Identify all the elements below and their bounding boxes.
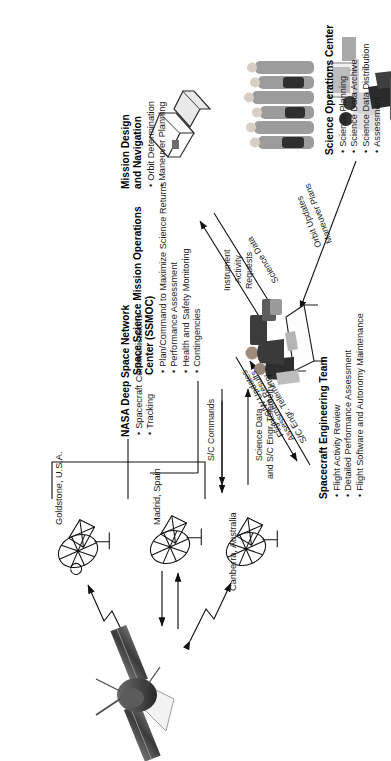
diagram-rotor: Goldstone, U.S.A. Madrid, Spain Canberra… [0, 0, 391, 761]
block-title-spacecraft-engineering: Spacecraft Engineering Team [318, 357, 330, 499]
block-bullets-ssmoc: Plan/Command to Maximize Science Returns… [158, 182, 204, 373]
block-title-science-operations-center: Science Operations Center [324, 25, 336, 155]
block-title-dsn: NASA Deep Space Network [120, 305, 132, 437]
dsn-site-label-goldstone: Goldstone, U.S.A. [54, 451, 65, 525]
bullet-sceng-1: Detailed Performance Assessment [343, 313, 354, 497]
dsn-site-label-madrid: Madrid, Spain [152, 468, 163, 525]
flow-label-instrument-activity-line2: Activity [233, 255, 243, 283]
bullet-soc-2: Science Data Distribution [361, 44, 372, 153]
flow-label-instrument-activity-line1: Instrument [222, 249, 232, 291]
bullet-soc-0: Science Planning [338, 44, 349, 153]
diagram-canvas: Goldstone, U.S.A. Madrid, Spain Canberra… [0, 0, 391, 761]
bullet-soc-1: Science Data Archive [349, 44, 360, 153]
bullet-ssmoc-0: Plan/Command to Maximize Science Returns [158, 182, 169, 373]
spacecraft-illustration [96, 625, 174, 761]
block-title-mission-design-line1: Mission Design [120, 114, 132, 189]
flow-label-science-data-telemetry-line1: Science Data [254, 409, 264, 461]
block-title-ssmoc-line2: Center (SSMOC) [144, 296, 156, 375]
flow-science-data-telemetry [150, 381, 198, 473]
soc-scientists-photo [244, 61, 314, 149]
dsn-antenna-goldstone [53, 520, 109, 575]
flow-label-instrument-activity-line3: Requests [244, 252, 254, 289]
bullet-ssmoc-1: Performance Assessment [169, 182, 180, 373]
flow-label-sc-commands: S/C Commands [206, 399, 216, 461]
block-bullets-spacecraft-engineering: Flight Activity Review Detailed Performa… [332, 313, 366, 497]
block-title-mission-design-line2: and Navigation [132, 116, 144, 189]
bullet-sceng-0: Flight Activity Review [332, 313, 343, 497]
bullet-mdn-0: Orbit Determination [146, 101, 157, 187]
dsn-bracket [52, 439, 205, 499]
bullet-soc-3: Assessment [372, 44, 383, 153]
bullet-mdn-1: Maneuver Planning [157, 101, 168, 187]
comm-link-goldstone [88, 585, 128, 643]
dsn-site-label-canberra: Canberra, Australia [228, 512, 239, 591]
comm-link-canberra [190, 583, 231, 641]
block-title-ssmoc-line1: Space Science Mission Operations [132, 206, 144, 375]
bullet-ssmoc-3: Contingencies [192, 182, 203, 373]
bullet-ssmoc-2: Health and Safety Monitoring [181, 182, 192, 373]
block-bullets-science-operations-center: Science Planning Science Data Archive Sc… [338, 44, 384, 153]
bullet-sceng-2: Flight Software and Autonomy Maintenance [355, 313, 366, 497]
block-bullets-mission-design: Orbit Determination Maneuver Planning [146, 101, 169, 187]
